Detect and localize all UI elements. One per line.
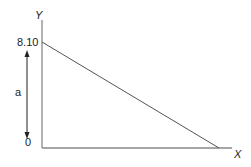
y-top-value: 8.10 bbox=[17, 37, 38, 48]
diagram-canvas bbox=[0, 0, 251, 167]
double-arrow-icon bbox=[25, 50, 30, 139]
y-axis-label: Y bbox=[35, 10, 42, 21]
x-axis-label: X bbox=[234, 149, 241, 160]
decreasing-line bbox=[42, 42, 219, 148]
arrow-label: a bbox=[15, 87, 21, 98]
y-zero-value: 0 bbox=[25, 137, 31, 148]
